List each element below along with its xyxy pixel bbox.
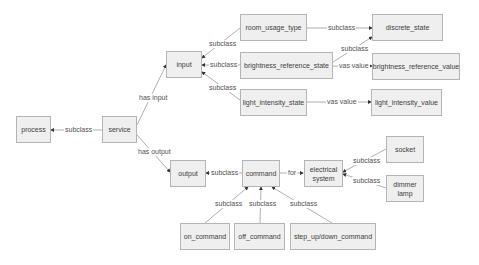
node-command[interactable]: command xyxy=(242,160,280,187)
edge-label-has-input: has input xyxy=(138,94,168,102)
edge-label-service-process: subclass xyxy=(64,126,93,134)
edge-label-off-command: subclass xyxy=(248,200,277,208)
edge-label-for: for xyxy=(287,169,297,177)
edge-label-dimmer-lamp: subclass xyxy=(352,177,381,185)
node-input[interactable]: input xyxy=(166,51,202,78)
edge-label-room-discrete: subclass xyxy=(327,24,356,32)
edge-label-brightness-value: vas value xyxy=(338,62,370,70)
node-on-command[interactable]: on_command xyxy=(180,223,230,250)
node-step-up-down-command[interactable]: step_up/down_command xyxy=(290,223,376,250)
node-light-intensity-value[interactable]: light_intensity_value xyxy=(371,89,442,116)
node-discrete-state[interactable]: discrete_state xyxy=(372,14,443,41)
node-output[interactable]: output xyxy=(170,160,206,187)
edge-label-step-command: subclass xyxy=(289,200,318,208)
edge-label-brightness-discrete: subclass xyxy=(340,45,369,53)
node-service[interactable]: service xyxy=(102,116,137,143)
node-light-intensity-state[interactable]: light_intensity_state xyxy=(240,89,307,116)
edge-label-room-input: subclass xyxy=(208,40,237,48)
edge-label-light-value: vas value xyxy=(326,98,358,106)
edge-label-has-output: has output xyxy=(137,148,172,156)
node-electrical-system[interactable]: electrical system xyxy=(304,160,343,187)
edge-label-light-input: subclass xyxy=(208,84,237,92)
node-brightness-reference-state[interactable]: brightness_reference_state xyxy=(240,52,333,79)
ontology-diagram: process service input output room_usage_… xyxy=(0,0,479,265)
node-brightness-reference-value[interactable]: brightness_reference_value xyxy=(372,53,460,80)
node-dimmer-lamp[interactable]: dimmer lamp xyxy=(386,175,424,202)
edge-label-socket: subclass xyxy=(352,157,381,165)
edge-label-command-output: subclass xyxy=(210,169,239,177)
node-room-usage-type[interactable]: room_usage_type xyxy=(240,14,307,41)
node-socket[interactable]: socket xyxy=(386,136,424,163)
edge-label-brightness-input: subclass xyxy=(209,61,238,69)
node-process[interactable]: process xyxy=(16,116,51,143)
node-off-command[interactable]: off_command xyxy=(234,223,285,250)
edge-label-on-command: subclass xyxy=(214,200,243,208)
